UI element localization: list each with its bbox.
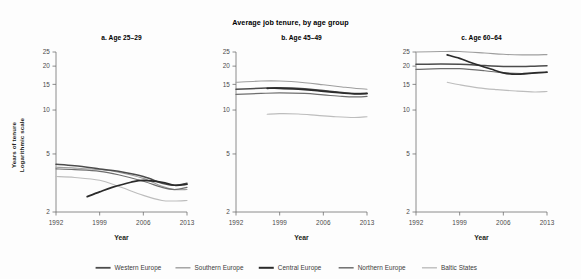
y-tick-label-b-2: 2 bbox=[226, 208, 230, 215]
legend-label-northern-europe: Northern Europe bbox=[358, 264, 406, 272]
x-tick-label-c-1999: 1999 bbox=[452, 219, 467, 226]
x-tick-label-b-1992: 1992 bbox=[229, 219, 244, 226]
x-axis-title-a: Year bbox=[114, 234, 129, 241]
y-tick-label-c-2: 2 bbox=[406, 208, 410, 215]
x-tick-label-b-1999: 1999 bbox=[272, 219, 287, 226]
panel-title-a: a. Age 25–29 bbox=[101, 34, 142, 42]
y-tick-label-b-5: 5 bbox=[226, 150, 230, 157]
y-tick-label-a-10: 10 bbox=[43, 106, 51, 113]
y-tick-label-b-25: 25 bbox=[223, 48, 231, 55]
x-tick-label-b-2013: 2013 bbox=[360, 219, 375, 226]
y-tick-label-a-25: 25 bbox=[43, 48, 51, 55]
y-tick-label-a-15: 15 bbox=[43, 81, 51, 88]
average-job-tenure-chart: Average job tenure, by age group a. Age … bbox=[0, 0, 581, 279]
y-tick-label-b-10: 10 bbox=[223, 106, 231, 113]
y-tick-label-c-5: 5 bbox=[406, 150, 410, 157]
x-tick-label-b-2006: 2006 bbox=[316, 219, 331, 226]
y-tick-label-c-10: 10 bbox=[403, 106, 411, 113]
x-axis-title-c: Year bbox=[474, 234, 489, 241]
y-tick-label-a-2: 2 bbox=[46, 208, 50, 215]
legend-label-western-europe: Western Europe bbox=[115, 264, 162, 272]
figure-container: Average job tenure, by age group a. Age … bbox=[0, 0, 581, 279]
y-tick-label-c-15: 15 bbox=[403, 81, 411, 88]
legend-label-central-europe: Central Europe bbox=[278, 264, 322, 272]
y-axis-title: Years of tenure Logarithmic scale bbox=[10, 117, 25, 172]
x-tick-label-c-2013: 2013 bbox=[540, 219, 555, 226]
x-tick-label-a-1992: 1992 bbox=[49, 219, 64, 226]
y-tick-label-a-20: 20 bbox=[43, 62, 51, 69]
x-tick-label-a-2006: 2006 bbox=[136, 219, 151, 226]
y-axis-title-line2: Logarithmic scale bbox=[18, 117, 25, 172]
panel-title-b: b. Age 45–49 bbox=[281, 34, 322, 42]
x-axis-title-b: Year bbox=[294, 234, 309, 241]
panel-title-c: c. Age 60–64 bbox=[461, 34, 502, 42]
y-tick-label-a-5: 5 bbox=[46, 150, 50, 157]
x-tick-label-c-1992: 1992 bbox=[409, 219, 424, 226]
y-axis-title-line1: Years of tenure bbox=[10, 121, 17, 168]
chart-background bbox=[0, 0, 581, 279]
x-tick-label-c-2006: 2006 bbox=[496, 219, 511, 226]
x-tick-label-a-1999: 1999 bbox=[92, 219, 107, 226]
figure-title: Average job tenure, by age group bbox=[232, 18, 349, 27]
y-tick-label-b-15: 15 bbox=[223, 81, 231, 88]
x-tick-label-a-2013: 2013 bbox=[180, 219, 195, 226]
legend-label-baltic-states: Baltic States bbox=[441, 264, 477, 271]
y-tick-label-b-20: 20 bbox=[223, 62, 231, 69]
y-tick-label-c-25: 25 bbox=[403, 48, 411, 55]
legend-label-southern-europe: Southern Europe bbox=[194, 264, 243, 272]
y-tick-label-c-20: 20 bbox=[403, 62, 411, 69]
